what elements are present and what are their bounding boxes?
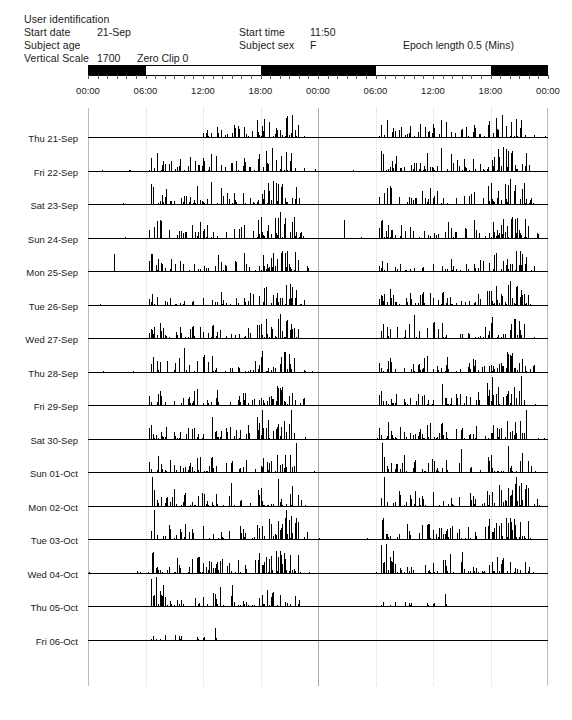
activity-bar	[496, 523, 497, 540]
activity-bar	[259, 553, 260, 574]
activity-bar	[409, 571, 410, 574]
activity-bar	[267, 590, 268, 607]
activity-bar	[399, 606, 400, 607]
activity-bar	[534, 266, 535, 272]
activity-bar	[399, 304, 400, 306]
activity-bar	[484, 503, 485, 506]
hour-tick	[270, 75, 271, 79]
activity-bar	[522, 164, 523, 171]
activity-bar	[221, 165, 222, 171]
activity-bar	[298, 522, 299, 540]
activity-bar	[292, 115, 293, 138]
hour-tick	[136, 75, 137, 79]
activity-bar	[503, 397, 504, 406]
activity-bar	[280, 314, 281, 339]
activity-bar	[171, 372, 172, 373]
activity-bar	[156, 204, 157, 205]
activity-bar	[255, 361, 256, 373]
activity-bar	[226, 336, 227, 339]
subject-sex-value: F	[310, 39, 316, 51]
activity-bar	[390, 536, 391, 540]
activity-bar	[286, 570, 287, 573]
activity-bar	[226, 266, 227, 272]
activity-bar	[255, 270, 256, 272]
activity-bar	[438, 471, 439, 473]
activity-bar	[179, 231, 180, 239]
activity-bar	[244, 604, 245, 607]
activity-bar	[390, 167, 391, 171]
activity-bar	[428, 605, 429, 607]
activity-bar	[519, 363, 520, 373]
activity-bar	[521, 573, 522, 574]
activity-bar	[441, 528, 442, 540]
activity-bar	[254, 605, 255, 607]
activity-bar	[234, 505, 235, 506]
activity-bar	[502, 115, 503, 138]
activity-bar	[232, 163, 233, 172]
activity-bar	[386, 606, 387, 607]
activity-bar	[420, 163, 421, 171]
activity-bar	[161, 497, 162, 507]
activity-bar	[225, 573, 226, 574]
activity-bar	[465, 538, 466, 540]
activity-bar	[478, 572, 479, 574]
activity-bar	[286, 432, 287, 440]
activity-bar	[471, 467, 472, 473]
activity-bar	[383, 154, 384, 172]
activity-bar	[273, 181, 274, 205]
activity-bar	[162, 572, 163, 573]
activity-bar	[264, 190, 265, 205]
activity-bar	[156, 639, 157, 640]
activity-bar	[160, 201, 161, 205]
activity-bar	[295, 571, 296, 573]
subject-age-label: Subject age	[24, 39, 81, 51]
activity-bar	[170, 502, 171, 506]
activity-bar	[530, 538, 531, 540]
activity-bar	[344, 220, 345, 238]
activity-bar	[183, 604, 184, 607]
activity-bar	[245, 393, 246, 406]
activity-bar	[382, 506, 383, 507]
activity-bar	[526, 199, 527, 206]
activity-bar	[317, 204, 318, 205]
activity-bar	[198, 405, 199, 406]
activity-bar	[395, 539, 396, 540]
activity-bar	[175, 405, 176, 406]
activity-bar	[254, 537, 255, 540]
hour-tick	[548, 75, 549, 79]
activity-bar	[475, 128, 476, 138]
activity-bar	[208, 640, 209, 641]
activity-bar	[507, 421, 508, 439]
activity-bar	[332, 137, 333, 138]
activity-bar	[198, 434, 199, 440]
activity-bar	[170, 529, 171, 540]
activity-bar	[245, 162, 246, 172]
activity-bar	[434, 372, 435, 373]
hour-tick	[117, 75, 118, 79]
activity-bar	[315, 169, 316, 171]
activity-bar	[401, 338, 402, 339]
activity-bar	[514, 387, 515, 406]
activity-bar	[234, 472, 235, 473]
activity-bar	[522, 359, 523, 372]
activity-bar	[429, 472, 430, 473]
activity-bar	[142, 606, 143, 607]
activity-bar	[462, 238, 463, 239]
activity-bar	[430, 271, 431, 272]
activity-bar	[240, 137, 241, 138]
activity-bar	[208, 505, 209, 507]
activity-bar	[515, 319, 516, 339]
activity-bar	[285, 402, 286, 406]
activity-bar	[300, 403, 301, 406]
activity-bar	[151, 425, 152, 440]
day-label: Thu 05-Oct	[30, 602, 78, 613]
activity-bar	[292, 198, 293, 205]
activity-bar	[397, 327, 398, 339]
activity-bar	[511, 122, 512, 138]
activity-bar	[287, 472, 288, 473]
activity-bar	[296, 290, 297, 305]
activity-bar	[457, 573, 458, 574]
activity-bar	[455, 133, 456, 138]
activity-bar	[484, 571, 485, 573]
activity-bar	[287, 170, 288, 172]
